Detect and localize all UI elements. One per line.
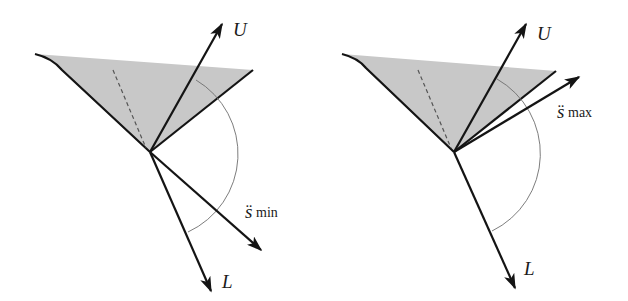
label-accel-symbol: s̈ <box>245 201 253 222</box>
label-accel-max: max <box>568 105 592 120</box>
shaded-cone-region <box>35 54 253 152</box>
panel-left: U L s̈ min <box>35 19 278 292</box>
label-lower-L: L <box>523 258 535 279</box>
label-accel-min: min <box>256 205 278 220</box>
lower-bound-arrow <box>150 152 211 291</box>
panel-right: U L s̈ max <box>342 23 592 288</box>
lower-bound-arrow <box>454 152 515 288</box>
label-lower-L: L <box>221 271 233 292</box>
label-accel-symbol: s̈ <box>557 101 565 122</box>
diagram-canvas: U L s̈ min U L s̈ max <box>0 0 628 301</box>
label-upper-U: U <box>537 23 552 44</box>
label-upper-U: U <box>233 19 248 40</box>
